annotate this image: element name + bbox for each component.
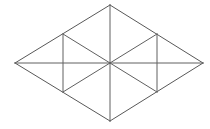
rhombus-triangle-diagram bbox=[0, 0, 210, 129]
figure-canvas bbox=[0, 0, 210, 129]
